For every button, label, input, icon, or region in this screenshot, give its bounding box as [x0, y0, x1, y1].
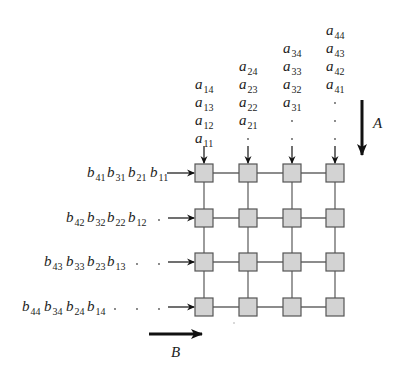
b-placeholder-dot	[136, 263, 138, 265]
b-placeholder-dot	[158, 219, 160, 221]
processing-element-2-1	[195, 209, 213, 227]
b-element-b42: b42	[66, 209, 85, 228]
flow-indicators: A B	[149, 100, 383, 360]
processing-element-1-4	[326, 164, 344, 182]
a-element-a24: a24	[239, 58, 258, 77]
b-placeholder-dot	[136, 308, 138, 310]
b-element-b12: b12	[128, 209, 147, 228]
b-element-b34: b34	[44, 298, 63, 317]
a-element-a33: a33	[283, 58, 302, 77]
b-element-b44: b44	[22, 298, 41, 317]
processing-element-3-3	[283, 253, 301, 271]
b-flow-label: B	[171, 344, 180, 360]
a-element-a43: a43	[326, 40, 345, 59]
processing-element-grid	[195, 164, 344, 316]
processing-element-3-2	[239, 253, 257, 271]
a-element-a13: a13	[195, 94, 214, 113]
processing-element-2-4	[326, 209, 344, 227]
a-placeholder-dot	[291, 120, 293, 122]
b-element-b32: b32	[87, 209, 106, 228]
processing-element-4-4	[326, 298, 344, 316]
processing-element-4-2	[239, 298, 257, 316]
scan-speck	[233, 322, 235, 324]
processing-element-1-2	[239, 164, 257, 182]
a-element-a32: a32	[283, 76, 302, 95]
processing-element-3-1	[195, 253, 213, 271]
b-element-b14: b14	[87, 298, 106, 317]
matrix-a-inputs: a14a13a12a11a24a23a22a21a34a33a32a31a44a…	[195, 22, 345, 163]
a-element-a23: a23	[239, 76, 258, 95]
a-placeholder-dot	[334, 138, 336, 140]
a-flow-label: A	[372, 115, 383, 131]
processing-element-4-1	[195, 298, 213, 316]
a-placeholder-dot	[291, 138, 293, 140]
a-placeholder-dot	[334, 102, 336, 104]
processing-element-2-2	[239, 209, 257, 227]
a-placeholder-dot	[334, 120, 336, 122]
a-element-a14: a14	[195, 76, 214, 95]
a-element-a21: a21	[239, 112, 258, 131]
b-element-b13: b13	[107, 253, 126, 272]
a-element-a12: a12	[195, 112, 214, 131]
systolic-array-diagram: a14a13a12a11a24a23a22a21a34a33a32a31a44a…	[0, 0, 401, 377]
b-element-b21: b21	[128, 164, 147, 183]
grid-links	[195, 164, 344, 316]
a-element-a22: a22	[239, 94, 258, 113]
matrix-b-inputs: b41b31b21b11b42b32b22b12b43b33b23b13b44b…	[22, 164, 194, 317]
a-element-a31: a31	[283, 94, 302, 113]
b-element-b43: b43	[44, 253, 63, 272]
a-element-a34: a34	[283, 40, 302, 59]
a-element-a42: a42	[326, 58, 345, 77]
b-element-b22: b22	[107, 209, 126, 228]
b-element-b11: b11	[150, 164, 168, 183]
a-element-a41: a41	[326, 76, 345, 95]
b-element-b24: b24	[66, 298, 85, 317]
b-element-b41: b41	[87, 164, 106, 183]
b-element-b33: b33	[66, 253, 85, 272]
a-element-a11: a11	[195, 130, 213, 149]
processing-element-1-1	[195, 164, 213, 182]
processing-element-1-3	[283, 164, 301, 182]
b-placeholder-dot	[158, 263, 160, 265]
b-placeholder-dot	[114, 308, 116, 310]
processing-element-4-3	[283, 298, 301, 316]
a-element-a44: a44	[326, 22, 345, 41]
b-placeholder-dot	[158, 308, 160, 310]
processing-element-2-3	[283, 209, 301, 227]
processing-element-3-4	[326, 253, 344, 271]
b-element-b31: b31	[107, 164, 126, 183]
b-element-b23: b23	[87, 253, 106, 272]
a-placeholder-dot	[247, 138, 249, 140]
